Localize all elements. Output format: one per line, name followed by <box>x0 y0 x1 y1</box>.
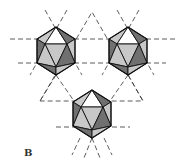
panel-label: B <box>24 147 32 158</box>
icosahedron-left <box>37 27 75 75</box>
icosahedra-lattice-diagram <box>0 0 191 164</box>
icosahedron-right <box>109 27 147 75</box>
icosahedron-bottom <box>73 90 111 138</box>
